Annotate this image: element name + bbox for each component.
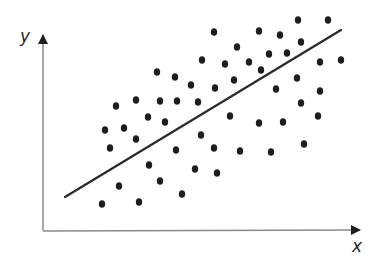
data-point (212, 84, 218, 92)
data-point (237, 147, 243, 155)
data-point (179, 190, 185, 198)
data-point (256, 27, 262, 35)
data-point (157, 97, 163, 105)
data-point (280, 118, 286, 126)
data-point (325, 16, 331, 24)
data-point (256, 119, 262, 127)
data-point (102, 126, 108, 134)
data-points (99, 16, 344, 208)
data-point (317, 87, 323, 95)
data-point (284, 49, 290, 57)
x-axis (43, 230, 360, 231)
data-point (266, 50, 272, 58)
data-point (116, 182, 122, 190)
data-point (146, 161, 152, 169)
data-point (301, 140, 307, 148)
data-point (107, 144, 113, 152)
data-point (315, 112, 321, 120)
data-point (174, 97, 180, 105)
data-point (133, 135, 139, 143)
data-point (273, 85, 279, 93)
data-point (211, 144, 217, 152)
data-point (227, 112, 233, 120)
data-point (294, 74, 300, 82)
trend-line (65, 30, 341, 197)
data-point (234, 43, 240, 51)
data-point (192, 165, 198, 173)
data-point (133, 96, 139, 104)
data-point (295, 16, 301, 24)
data-point (136, 198, 142, 206)
y-axis-label: y (19, 26, 31, 46)
data-point (113, 102, 119, 110)
data-point (188, 81, 194, 89)
data-point (317, 58, 323, 66)
data-point (338, 56, 344, 64)
data-point (298, 99, 304, 107)
data-point (172, 73, 178, 81)
data-point (268, 148, 274, 156)
data-point (198, 131, 204, 139)
data-point (211, 28, 217, 36)
data-point (195, 98, 201, 106)
data-point (246, 58, 252, 66)
data-point (231, 76, 237, 84)
data-point (145, 113, 151, 121)
data-point (214, 169, 220, 177)
data-point (222, 60, 228, 68)
data-point (99, 200, 105, 208)
data-point (121, 124, 127, 132)
data-point (199, 56, 205, 64)
data-point (173, 146, 179, 154)
x-axis-label: x (351, 236, 363, 256)
data-point (258, 66, 264, 74)
scatter-plot: y x (0, 0, 388, 264)
data-point (277, 31, 283, 39)
data-point (298, 38, 304, 46)
data-point (162, 118, 168, 126)
data-point (154, 68, 160, 76)
data-point (157, 177, 163, 185)
